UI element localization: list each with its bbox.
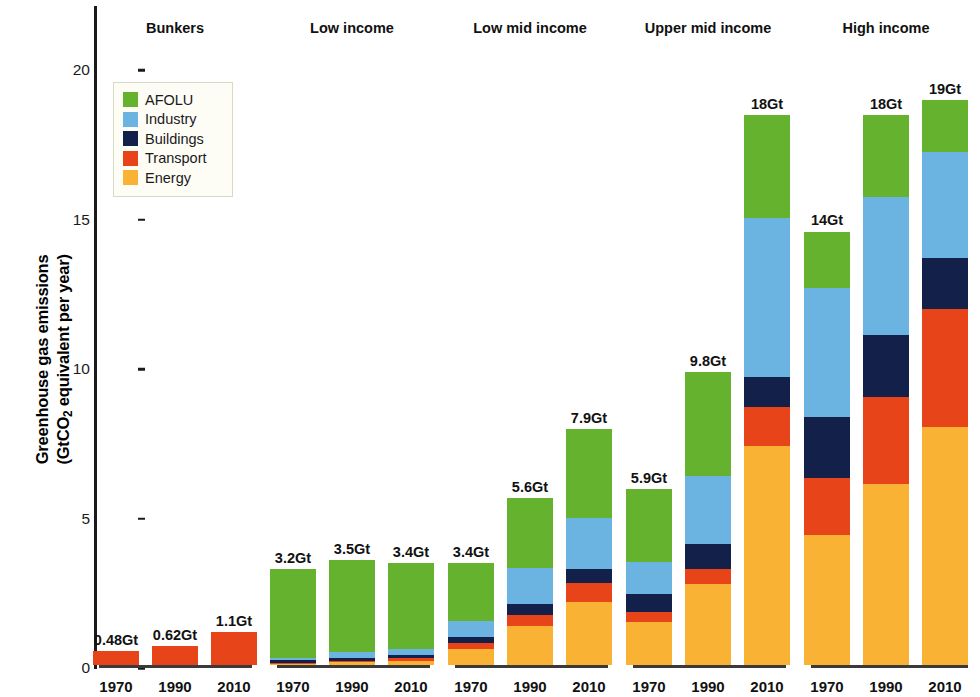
chart-legend: AFOLUIndustryBuildingsTransportEnergy [113, 82, 233, 197]
bar-total-label-upper-mid-income-1970: 5.9Gt [631, 470, 667, 486]
group-baseline-upper-mid-income [633, 665, 786, 668]
x-tick-label-upper-mid-income-2010: 2010 [750, 678, 783, 695]
y-tick-label-0: 0 [56, 659, 90, 677]
bar-segment-afolu [507, 498, 553, 568]
bar-segment-energy [566, 602, 612, 665]
y-tick-label-15: 15 [56, 211, 90, 229]
group-title-low-mid-income: Low mid income [473, 20, 587, 36]
bar-upper-mid-income-2010[interactable] [744, 115, 790, 665]
bar-bunkers-1990[interactable] [152, 646, 198, 665]
bar-segment-afolu [270, 569, 316, 657]
legend-item-transport[interactable]: Transport [123, 149, 224, 169]
bar-segment-afolu [448, 563, 494, 620]
bar-low-income-1990[interactable] [329, 560, 375, 665]
bar-segment-transport [744, 407, 790, 446]
bar-segment-energy [329, 662, 375, 665]
bar-segment-buildings [922, 258, 968, 309]
y-tick-mark-20 [138, 69, 145, 72]
bar-total-label-high-income-2010: 19Gt [929, 81, 961, 97]
bar-segment-industry [566, 518, 612, 569]
bar-low-mid-income-1970[interactable] [448, 563, 494, 665]
bar-total-label-low-income-1990: 3.5Gt [334, 541, 370, 557]
bar-high-income-1990[interactable] [863, 115, 909, 665]
bar-segment-transport [922, 309, 968, 427]
group-baseline-bunkers [99, 665, 252, 668]
legend-item-afolu[interactable]: AFOLU [123, 90, 224, 110]
y-tick-label-20: 20 [56, 61, 90, 79]
bar-segment-afolu [329, 560, 375, 651]
x-tick-label-low-income-1970: 1970 [276, 678, 309, 695]
bar-segment-energy [922, 427, 968, 665]
bar-segment-transport [685, 569, 731, 585]
group-title-low-income: Low income [310, 20, 394, 36]
x-tick-label-low-mid-income-1970: 1970 [454, 678, 487, 695]
bar-segment-transport [152, 646, 198, 665]
y-axis-title-line1: Greenhouse gas emissions [33, 255, 51, 465]
bar-total-label-bunkers-2010: 1.1Gt [216, 613, 252, 629]
bar-segment-buildings [744, 377, 790, 407]
y-axis-line [94, 6, 97, 669]
bar-segment-afolu [388, 563, 434, 649]
x-tick-label-high-income-1990: 1990 [869, 678, 902, 695]
legend-item-buildings[interactable]: Buildings [123, 129, 224, 149]
bar-bunkers-1970[interactable] [93, 651, 139, 665]
bar-segment-buildings [863, 335, 909, 398]
legend-label-buildings: Buildings [145, 132, 204, 147]
bar-segment-energy [685, 584, 731, 665]
bar-low-mid-income-2010[interactable] [566, 429, 612, 665]
bar-segment-afolu [744, 115, 790, 218]
x-tick-label-bunkers-1970: 1970 [99, 678, 132, 695]
bar-segment-industry [922, 152, 968, 258]
bar-segment-afolu [863, 115, 909, 197]
bar-segment-industry [744, 218, 790, 376]
bar-segment-transport [211, 632, 257, 665]
bar-segment-buildings [507, 604, 553, 615]
bar-segment-industry [448, 621, 494, 637]
x-tick-label-low-income-1990: 1990 [335, 678, 368, 695]
legend-label-energy: Energy [145, 171, 191, 186]
bar-segment-transport [507, 615, 553, 626]
bar-low-income-1970[interactable] [270, 569, 316, 665]
bar-low-mid-income-1990[interactable] [507, 498, 553, 665]
bar-segment-energy [270, 664, 316, 665]
bar-segment-afolu [804, 232, 850, 289]
bar-total-label-low-income-2010: 3.4Gt [393, 544, 429, 560]
bar-segment-buildings [566, 569, 612, 582]
x-tick-label-bunkers-1990: 1990 [158, 678, 191, 695]
bar-high-income-2010[interactable] [922, 100, 968, 665]
bar-segment-energy [863, 484, 909, 665]
group-title-high-income: High income [842, 20, 929, 36]
bar-segment-afolu [685, 372, 731, 476]
legend-item-industry[interactable]: Industry [123, 110, 224, 130]
bar-segment-buildings [626, 594, 672, 611]
group-baseline-low-mid-income [455, 665, 608, 668]
bar-segment-energy [388, 661, 434, 665]
bar-segment-energy [626, 622, 672, 665]
bar-high-income-1970[interactable] [804, 231, 850, 665]
bar-segment-industry [863, 197, 909, 335]
legend-item-energy[interactable]: Energy [123, 168, 224, 188]
legend-swatch-buildings-icon [123, 131, 138, 146]
bar-segment-afolu [566, 429, 612, 518]
bar-low-income-2010[interactable] [388, 563, 434, 665]
legend-label-afolu: AFOLU [145, 93, 193, 108]
legend-swatch-afolu-icon [123, 92, 138, 107]
bar-total-label-high-income-1970: 14Gt [811, 212, 843, 228]
group-baseline-low-income [277, 665, 430, 668]
bar-total-label-low-mid-income-1990: 5.6Gt [512, 479, 548, 495]
group-title-bunkers: Bunkers [146, 20, 204, 36]
y-tick-mark-5 [138, 517, 145, 520]
x-tick-label-low-mid-income-1990: 1990 [513, 678, 546, 695]
bar-segment-buildings [804, 417, 850, 478]
bar-upper-mid-income-1970[interactable] [626, 489, 672, 665]
y-tick-mark-10 [138, 368, 145, 371]
bar-total-label-high-income-1990: 18Gt [870, 96, 902, 112]
bar-segment-industry [626, 562, 672, 595]
bar-segment-energy [448, 649, 494, 665]
bar-upper-mid-income-1990[interactable] [685, 372, 731, 665]
bar-segment-transport [626, 612, 672, 622]
bar-segment-afolu [626, 489, 672, 562]
bar-segment-afolu [922, 100, 968, 152]
x-tick-label-high-income-2010: 2010 [928, 678, 961, 695]
bar-bunkers-2010[interactable] [211, 632, 257, 665]
